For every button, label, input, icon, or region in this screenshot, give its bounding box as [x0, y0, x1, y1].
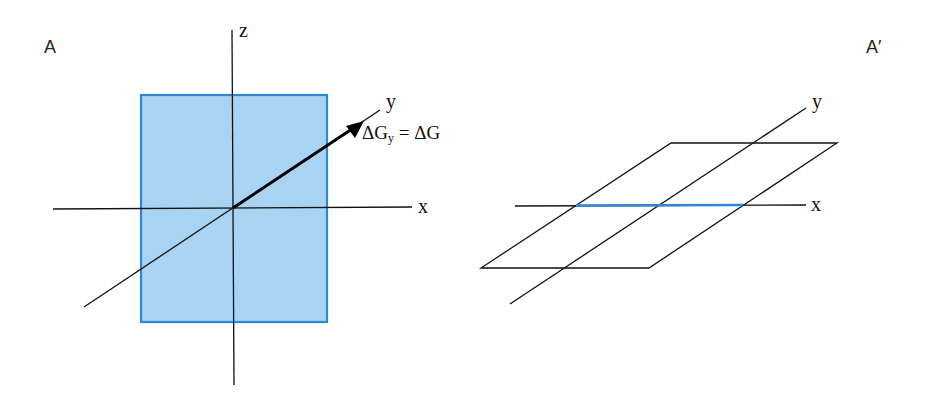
x-axis-prime-label: x — [811, 194, 821, 214]
equals-sign: = — [399, 122, 410, 143]
delta-g-subscript: y — [388, 131, 394, 145]
diagram-canvas — [0, 0, 930, 413]
panel-a-prime-figure — [481, 108, 837, 304]
delta-g-equation: ΔGy = ΔG — [362, 123, 440, 144]
y-axis-label: y — [386, 91, 396, 111]
z-axis-label: z — [239, 20, 248, 40]
intersection-line — [576, 205, 743, 206]
panel-label-a: A — [44, 37, 56, 58]
panel-a-figure — [53, 30, 412, 385]
x-axis-label: x — [418, 196, 428, 216]
delta-g-rhs: ΔG — [414, 122, 440, 143]
panel-label-a-prime: A′ — [866, 37, 881, 58]
y-axis-prime-label: y — [812, 91, 822, 111]
delta-g-lhs: ΔG — [362, 122, 388, 143]
